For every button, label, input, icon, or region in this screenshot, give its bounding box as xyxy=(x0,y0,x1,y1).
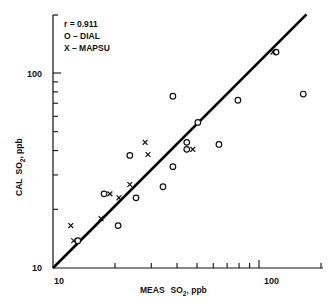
mapsu-point xyxy=(143,140,148,145)
mapsu-point xyxy=(146,152,151,157)
dial-point xyxy=(184,140,190,146)
y-tick-label-100: 100 xyxy=(27,69,42,79)
mapsu-point xyxy=(127,182,132,187)
r-value-annotation: r = 0.911 xyxy=(64,19,98,29)
dial-point xyxy=(127,153,133,159)
dial-point xyxy=(184,147,190,153)
dial-point xyxy=(235,97,241,103)
mapsu-point xyxy=(108,191,113,196)
legend: r = 0.911 O – DIAL X – MAPSU xyxy=(64,19,110,53)
dial-point xyxy=(133,195,139,201)
x-tick-label-100: 100 xyxy=(264,276,279,286)
legend-dial: O – DIAL xyxy=(64,31,100,41)
y-axis-title: CALSO2, ppb xyxy=(14,138,26,196)
dial-point xyxy=(115,223,121,229)
dial-point xyxy=(101,191,107,197)
scatter-chart: 10 100 10 100 MEASSO2, ppb CALSO2, ppb r… xyxy=(0,0,335,304)
dial-point xyxy=(170,93,176,99)
dial-point xyxy=(216,142,222,148)
y-tick-label-10: 10 xyxy=(32,263,42,273)
dial-point xyxy=(160,184,166,190)
x-tick-label-10: 10 xyxy=(54,276,64,286)
dial-point xyxy=(195,120,201,126)
mapsu-point xyxy=(190,147,195,152)
dial-point xyxy=(273,49,279,55)
legend-mapsu: X – MAPSU xyxy=(64,43,110,53)
x-axis xyxy=(53,260,323,268)
mapsu-point xyxy=(68,223,73,228)
mapsu-point xyxy=(117,195,122,200)
dial-point xyxy=(170,164,176,170)
data-points xyxy=(68,49,306,243)
x-axis-title: MEASSO2, ppb xyxy=(140,285,207,297)
y-axis xyxy=(53,15,61,268)
dial-point xyxy=(300,91,306,97)
